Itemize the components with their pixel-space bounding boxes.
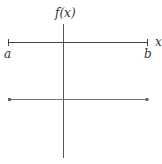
right-endpoint-dot bbox=[146, 98, 149, 101]
endpoint-b-label: b bbox=[144, 47, 152, 61]
endpoint-a-label: a bbox=[4, 47, 11, 61]
x-axis-label: x bbox=[155, 35, 162, 49]
left-endpoint-dot bbox=[8, 98, 11, 101]
y-axis-label: f(x) bbox=[54, 6, 76, 20]
function-diagram: f(x) x a b bbox=[0, 0, 162, 164]
